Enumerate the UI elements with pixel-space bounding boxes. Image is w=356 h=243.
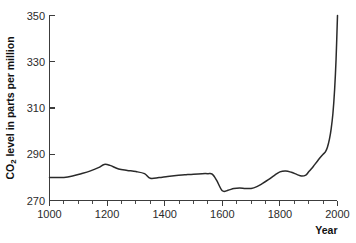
x-tick-label: 1000 bbox=[37, 208, 61, 220]
x-tick-label: 1800 bbox=[268, 208, 292, 220]
x-tick-label: 2000 bbox=[325, 208, 349, 220]
y-axis-title-pre: CO bbox=[4, 164, 16, 180]
y-axis-title: CO2 level in parts per million bbox=[4, 36, 18, 179]
x-tick-label: 1200 bbox=[95, 208, 119, 220]
y-tick-label: 350 bbox=[27, 10, 45, 22]
x-tick-labels: 1000 1200 1400 1600 1800 2000 bbox=[37, 208, 349, 220]
x-tick-label: 1400 bbox=[152, 208, 176, 220]
chart-canvas: 350 330 310 290 270 1000 1200 1400 1600 … bbox=[0, 0, 356, 243]
y-tick-labels: 350 330 310 290 270 bbox=[27, 10, 45, 207]
co2-line-chart: 350 330 310 290 270 1000 1200 1400 1600 … bbox=[0, 0, 356, 243]
y-axis-title-post: level in parts per million bbox=[4, 36, 16, 159]
y-tick-label: 270 bbox=[27, 195, 45, 207]
y-tick-label: 290 bbox=[27, 148, 45, 160]
y-tick-label: 330 bbox=[27, 56, 45, 68]
y-tick-label: 310 bbox=[27, 102, 45, 114]
plot-background bbox=[49, 15, 337, 200]
x-axis-title: Year bbox=[315, 224, 337, 236]
x-tick-label: 1600 bbox=[210, 208, 234, 220]
